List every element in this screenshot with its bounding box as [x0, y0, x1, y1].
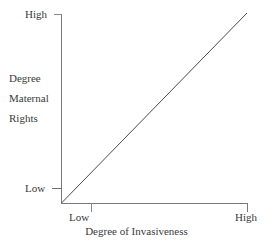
x-axis-label-low: Low — [69, 211, 89, 223]
y-axis-title-line-2: Maternal — [9, 88, 49, 108]
x-axis-label-high: High — [235, 211, 257, 223]
chart-figure: High Low Low High Degree Maternal Rights… — [0, 0, 273, 243]
series-line-maternal-rights — [62, 13, 248, 203]
x-axis-tick-low — [91, 203, 92, 212]
y-axis-tick-low — [52, 188, 62, 189]
y-axis-title-line-1: Degree — [9, 68, 49, 88]
y-axis-title-line-3: Rights — [9, 108, 49, 128]
y-axis-line — [61, 14, 62, 204]
y-axis-label-low: Low — [25, 182, 45, 194]
x-axis-line — [61, 203, 248, 204]
y-axis-tick-high — [54, 14, 62, 15]
y-axis-label-high: High — [25, 8, 47, 20]
x-axis-title: Degree of Invasiveness — [0, 225, 273, 238]
y-axis-title: Degree Maternal Rights — [9, 68, 49, 128]
